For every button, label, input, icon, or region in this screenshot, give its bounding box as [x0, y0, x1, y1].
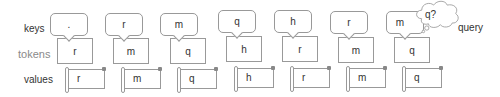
value-text: m — [358, 72, 366, 83]
key-bubble: r — [330, 11, 368, 34]
value-text: q — [189, 73, 195, 84]
value-scroll: r — [292, 68, 330, 88]
scroll-knob-icon — [327, 66, 331, 70]
token-box: r — [282, 36, 318, 62]
scroll-knob-icon — [214, 67, 218, 71]
token-box: q — [170, 38, 206, 64]
value-scroll: m — [123, 69, 161, 89]
key-bubble: . — [50, 13, 88, 36]
value-text: q — [414, 72, 420, 83]
key-bubble: m — [160, 13, 198, 36]
token-box: r — [57, 38, 93, 64]
thought-cloud-icon — [409, 0, 465, 34]
query-label: query — [458, 22, 483, 33]
token-box: m — [338, 37, 374, 63]
key-bubble: h — [274, 10, 312, 33]
row-label-values: values — [24, 74, 53, 85]
row-label-keys: keys — [24, 23, 45, 34]
key-bubble: q — [218, 10, 256, 33]
scroll-knob-icon — [383, 66, 387, 70]
token-box: h — [226, 36, 262, 62]
scroll-knob-icon — [102, 67, 106, 71]
value-text: h — [246, 72, 252, 83]
scroll-roll-icon — [121, 67, 125, 93]
value-scroll: m — [348, 68, 386, 88]
key-text: h — [290, 16, 296, 27]
scroll-knob-icon — [439, 66, 443, 70]
key-text: r — [122, 19, 125, 30]
token-box: m — [113, 38, 149, 64]
scroll-roll-icon — [177, 67, 181, 93]
token-box: q — [394, 37, 430, 63]
scroll-roll-icon — [65, 67, 69, 93]
value-text: r — [302, 72, 305, 83]
key-text: q — [234, 16, 240, 27]
scroll-roll-icon — [234, 66, 238, 92]
key-text: . — [68, 19, 71, 30]
key-text: r — [347, 17, 350, 28]
key-bubble: r — [105, 13, 143, 36]
value-scroll: h — [236, 68, 274, 88]
value-text: r — [77, 73, 80, 84]
value-scroll: q — [404, 68, 442, 88]
value-text: m — [133, 73, 141, 84]
scroll-knob-icon — [158, 67, 162, 71]
scroll-roll-icon — [290, 66, 294, 92]
key-text: m — [396, 17, 404, 28]
scroll-roll-icon — [402, 66, 406, 92]
value-scroll: q — [179, 69, 217, 89]
key-text: m — [175, 19, 183, 30]
scroll-roll-icon — [346, 66, 350, 92]
row-label-tokens: tokens — [18, 48, 50, 60]
query-bubble-text: q? — [425, 9, 436, 20]
scroll-knob-icon — [271, 66, 275, 70]
value-scroll: r — [67, 69, 105, 89]
